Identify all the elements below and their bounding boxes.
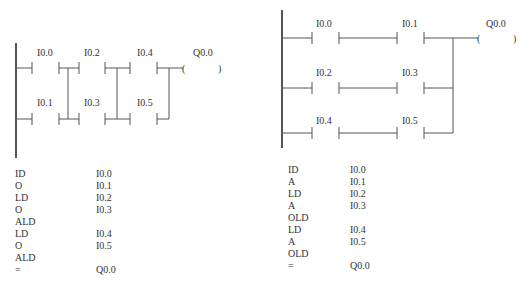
right-ladder-diagram: ( ) I0.0 I0.1 Q0.0 I0.2 I0.3 I0.4 I0.5: [0, 0, 529, 165]
contact-right-c2: [397, 32, 478, 44]
label-right-c5: I0.4: [316, 115, 332, 126]
opcode: LD: [15, 192, 28, 204]
opcode: ALD: [15, 216, 36, 228]
contact-right-c3: [282, 82, 397, 94]
contact-right-c6: [397, 127, 453, 139]
opcode: A: [288, 176, 295, 188]
instruction-row: AI0.1: [288, 176, 438, 188]
instruction-row: LDI0.2: [288, 188, 438, 200]
operand: I0.0: [350, 164, 366, 176]
instruction-row: AI0.3: [288, 200, 438, 212]
opcode: LD: [288, 188, 301, 200]
operand: I0.2: [350, 188, 366, 200]
operand: Q0.0: [350, 260, 370, 272]
label-right-c1: I0.0: [316, 18, 332, 29]
instruction-row: LDI0.4: [288, 224, 438, 236]
instruction-row: OI0.3: [15, 204, 165, 216]
operand: I0.3: [96, 204, 112, 216]
left-instruction-list: IDI0.0 OI0.1 LDI0.2 OI0.3 ALD LDI0.4 OI0…: [15, 168, 165, 276]
svg-text:): ): [513, 33, 516, 45]
label-right-c2: I0.1: [402, 18, 418, 29]
instruction-row: OLD: [288, 212, 438, 224]
label-right-coil: Q0.0: [486, 18, 506, 29]
operand: I0.5: [96, 240, 112, 252]
opcode: A: [288, 200, 295, 212]
operand: I0.4: [96, 228, 112, 240]
instruction-row: =Q0.0: [15, 264, 165, 276]
operand: I0.4: [350, 224, 366, 236]
instruction-row: IDI0.0: [288, 164, 438, 176]
opcode: O: [15, 240, 22, 252]
operand: I0.5: [350, 236, 366, 248]
contact-right-c4: [397, 82, 453, 94]
coil-right: ( ): [477, 33, 516, 45]
opcode: =: [15, 264, 21, 276]
opcode: ID: [288, 164, 299, 176]
opcode: A: [288, 236, 295, 248]
opcode: LD: [15, 228, 28, 240]
instruction-row: OI0.1: [15, 180, 165, 192]
right-instruction-list: IDI0.0 AI0.1 LDI0.2 AI0.3 OLD LDI0.4 AI0…: [288, 164, 438, 272]
opcode: OLD: [288, 248, 309, 260]
label-right-c4: I0.3: [402, 67, 418, 78]
opcode: OLD: [288, 212, 309, 224]
opcode: ID: [15, 168, 26, 180]
operand: I0.0: [96, 168, 112, 180]
opcode: ALD: [15, 252, 36, 264]
instruction-row: OLD: [288, 248, 438, 260]
instruction-row: ALD: [15, 252, 165, 264]
svg-text:(: (: [477, 33, 481, 45]
label-right-c3: I0.2: [316, 67, 332, 78]
operand: I0.3: [350, 200, 366, 212]
instruction-row: OI0.5: [15, 240, 165, 252]
opcode: =: [288, 260, 294, 272]
opcode: O: [15, 180, 22, 192]
label-right-c6: I0.5: [402, 115, 418, 126]
instruction-row: AI0.5: [288, 236, 438, 248]
instruction-row: LDI0.2: [15, 192, 165, 204]
instruction-row: ALD: [15, 216, 165, 228]
operand: I0.1: [350, 176, 366, 188]
opcode: O: [15, 204, 22, 216]
operand: I0.2: [96, 192, 112, 204]
contact-right-c5: [282, 127, 397, 139]
instruction-row: =Q0.0: [288, 260, 438, 272]
opcode: LD: [288, 224, 301, 236]
instruction-row: LDI0.4: [15, 228, 165, 240]
operand: Q0.0: [96, 264, 116, 276]
contact-right-c1: [282, 32, 397, 44]
instruction-row: IDI0.0: [15, 168, 165, 180]
operand: I0.1: [96, 180, 112, 192]
